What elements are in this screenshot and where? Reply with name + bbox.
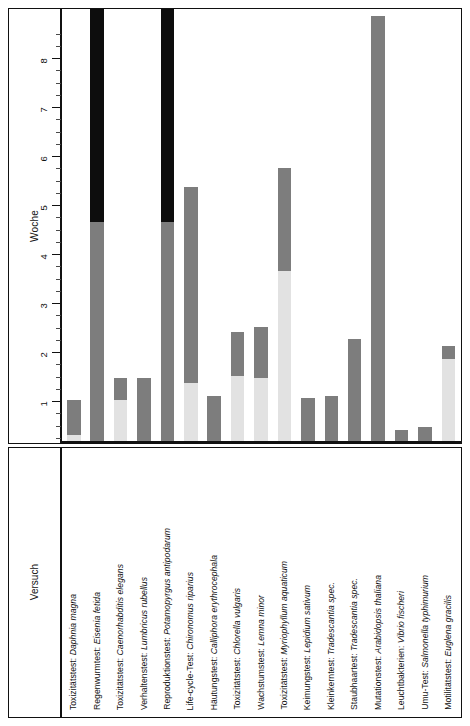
bar-segment-medium — [137, 378, 151, 442]
bar-segment-medium — [207, 396, 221, 443]
bar-segment-medium — [67, 400, 81, 434]
category-label-text: Staubhaartest: Tradescantia spec. — [350, 578, 359, 710]
category-label-text: Umu-Test: Salmonella typhimurium — [421, 575, 430, 710]
category-label: Umu-Test: Salmonella typhimurium — [413, 452, 436, 710]
bar — [325, 396, 339, 443]
y-axis-tick-label: 6 — [44, 159, 55, 164]
y-axis-minor-tick — [56, 377, 61, 378]
y-axis-minor-tick — [56, 426, 61, 427]
bar-segment-medium — [184, 187, 198, 383]
category-label-text: Toxizitätstest: Caenorhabditis elegans — [116, 564, 125, 710]
bar — [278, 168, 292, 442]
y-axis-ticks: 12345678 — [8, 8, 61, 444]
y-axis-minor-tick — [56, 119, 61, 120]
y-axis-minor-tick — [56, 438, 61, 439]
bar — [114, 378, 128, 442]
species-name: Tradescantia spec. — [326, 582, 336, 655]
category-label-text: Reproduktionstest: Potamopyrgus antipoda… — [163, 528, 172, 710]
bar-segment-medium — [278, 168, 292, 271]
species-name: Lumbricus rubellus — [139, 577, 149, 650]
y-axis-major-tick — [52, 107, 61, 108]
y-axis-minor-tick — [56, 46, 61, 47]
category-label: Leuchtbakterien: Vibrio fischeri — [390, 452, 413, 710]
category-label-text: Toxizitätstest: Chlorella vulgaris — [233, 588, 242, 710]
y-axis-major-tick — [52, 156, 61, 157]
species-name: Chironomus riparius — [185, 572, 195, 650]
y-axis-major-tick — [52, 303, 61, 304]
y-axis-tick-label: 7 — [44, 110, 55, 115]
bar-segment-medium — [161, 222, 175, 443]
species-name: Potamopyrgus antipodarum — [162, 528, 172, 635]
category-label: Keimungstest: Lepidium sativum — [296, 452, 319, 710]
category-label-text: Motilitätstest: Euglena gracilis — [444, 595, 453, 710]
bar — [161, 9, 175, 442]
bar — [137, 378, 151, 442]
bar-segment-light — [231, 376, 245, 442]
y-axis-tick-label: 4 — [44, 257, 55, 262]
y-axis-major-tick — [52, 58, 61, 59]
x-axis-title-text: Versuch — [29, 564, 40, 600]
bar — [442, 346, 456, 442]
y-axis-minor-tick — [56, 95, 61, 96]
species-name: Arabidopsis thaliana — [373, 575, 383, 653]
bar-segment-medium — [114, 378, 128, 400]
species-name: Salmonella typhimurium — [420, 575, 430, 668]
bar-segment-light — [184, 383, 198, 442]
y-axis-minor-tick — [56, 217, 61, 218]
y-axis-tick-label-text: 4 — [38, 254, 49, 259]
y-axis-minor-tick — [56, 132, 61, 133]
category-label: Staubhaartest: Tradescantia spec. — [343, 452, 366, 710]
y-axis-tick-label-text: 6 — [38, 156, 49, 161]
category-label: Toxizitätstest: Caenorhabditis elegans — [109, 452, 132, 710]
species-name: Eisenia fetida — [92, 592, 102, 644]
bar — [301, 398, 315, 442]
category-label: Kleinkerntest: Tradescantia spec. — [320, 452, 343, 710]
category-label-text: Kleinkerntest: Tradescantia spec. — [327, 582, 336, 710]
y-axis-major-tick — [52, 254, 61, 255]
bar — [231, 332, 245, 442]
species-name: Myriophyllum aquaticum — [279, 561, 289, 655]
y-axis-minor-tick — [56, 279, 61, 280]
bar-segment-medium — [231, 332, 245, 376]
y-axis-tick-label: 1 — [44, 404, 55, 409]
y-axis-minor-tick — [56, 242, 61, 243]
y-axis-major-tick — [52, 401, 61, 402]
bars-container — [62, 9, 460, 443]
category-label-text: Life-cycle-Test: Chironomus riparius — [186, 572, 195, 710]
bar — [90, 9, 104, 442]
y-axis-tick-label-text: 2 — [38, 352, 49, 357]
category-label-text: Verhaltenstest: Lumbricus rubellus — [140, 577, 149, 710]
species-name: Calliphora erythrocephala — [209, 555, 219, 654]
y-axis-tick-label: 3 — [44, 306, 55, 311]
y-axis-minor-tick — [56, 340, 61, 341]
species-name: Caenorhabditis elegans — [115, 564, 125, 655]
y-axis-minor-tick — [56, 83, 61, 84]
y-axis-minor-tick — [56, 364, 61, 365]
y-axis-minor-tick — [56, 168, 61, 169]
species-name: Daphnia magna — [68, 594, 78, 655]
y-axis-minor-tick — [56, 328, 61, 329]
y-axis-tick-label: 2 — [44, 355, 55, 360]
y-axis-minor-tick — [56, 181, 61, 182]
category-label-text: Keimungstest: Lepidium sativum — [303, 585, 312, 710]
bar-segment-medium — [301, 398, 315, 442]
category-label: Toxizitätstest: Daphnia magna — [62, 452, 85, 710]
category-label-text: Mutationstest: Arabidopsis thaliana — [374, 575, 383, 710]
species-name: Vibrio fischeri — [396, 591, 406, 643]
bar-segment-dark — [161, 9, 175, 222]
y-axis-tick-label-text: 5 — [38, 205, 49, 210]
axis-baseline — [61, 441, 462, 444]
category-label-text: Toxizitätstest: Myriophyllum aquaticum — [280, 561, 289, 710]
category-label: Mutationstest: Arabidopsis thaliana — [366, 452, 389, 710]
category-label: Toxizitätstest: Myriophyllum aquaticum — [273, 452, 296, 710]
y-axis-minor-tick — [56, 144, 61, 145]
category-label: Motilitätstest: Euglena gracilis — [437, 452, 460, 710]
bar-segment-medium — [348, 339, 362, 442]
y-axis-major-tick — [52, 205, 61, 206]
species-name: Lemna minor — [256, 595, 266, 646]
y-axis-tick-label-text: 7 — [38, 107, 49, 112]
bar — [348, 339, 362, 442]
category-label-text: Leuchtbakterien: Vibrio fischeri — [397, 591, 406, 710]
species-name: Tradescantia spec. — [349, 578, 359, 651]
y-axis-tick-label-text: 8 — [38, 58, 49, 63]
